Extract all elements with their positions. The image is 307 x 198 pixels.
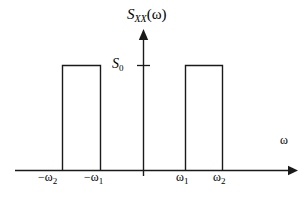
title-symbol: S [127, 6, 135, 22]
y-axis [139, 29, 148, 176]
spectral-density-figure: SXX(ω) S0 ω −ω2 −ω1 ω1 ω2 [0, 0, 307, 198]
tick-symbol: ω [176, 170, 184, 184]
x-tick-label-minus-omega-2: −ω2 [38, 170, 57, 186]
x-axis-arrowhead [288, 166, 298, 175]
tick-symbol: ω [45, 170, 53, 184]
y-value-label-s0: S0 [112, 56, 124, 73]
band-positive-frequencies [186, 66, 223, 171]
tick-subscript: 1 [184, 176, 189, 186]
tick-subscript: 2 [53, 176, 58, 186]
tick-symbol: ω [91, 170, 99, 184]
plot-title: SXX(ω) [127, 6, 167, 24]
s0-subscript: 0 [119, 63, 124, 73]
tick-subscript: 1 [99, 176, 104, 186]
s0-symbol: S [112, 56, 119, 71]
title-subscript: XX [135, 13, 147, 24]
x-tick-label-omega-1: ω1 [176, 170, 188, 186]
y-axis-arrowhead [139, 29, 148, 40]
x-axis [15, 166, 298, 175]
title-argument: (ω) [147, 6, 167, 22]
tick-subscript: 2 [221, 176, 226, 186]
x-axis-label-omega: ω [280, 133, 288, 148]
band-negative-frequencies [63, 66, 101, 171]
tick-prefix: − [84, 170, 91, 184]
tick-prefix: − [38, 170, 45, 184]
x-tick-label-minus-omega-1: −ω1 [84, 170, 103, 186]
x-tick-label-omega-2: ω2 [213, 170, 225, 186]
tick-symbol: ω [213, 170, 221, 184]
plot-canvas [0, 0, 307, 198]
